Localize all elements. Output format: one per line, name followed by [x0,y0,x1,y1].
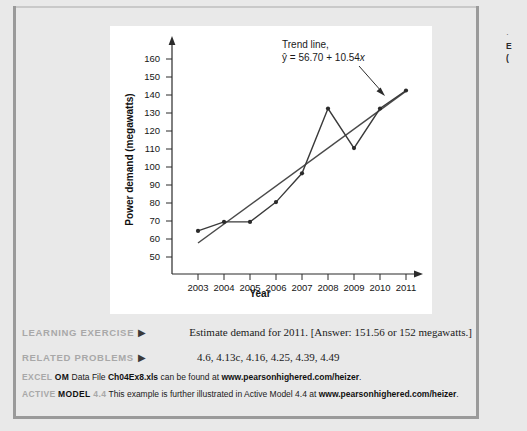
page-rule-left [13,6,16,419]
active-model-number: 4.4 [91,389,107,399]
active-model-row: ACTIVE MODEL 4.4 This example is further… [22,389,472,399]
learning-exercise-arrow-icon: ▶ [138,327,146,338]
active-model-lead-dark: MODEL [58,389,91,399]
trend-annotation-equation: ŷ = 56.70 + 10.54x [282,51,365,64]
page-rule-top [13,6,479,8]
margin-caption-line1: · [506,28,527,40]
learning-exercise-body: Estimate demand for 2011. [Answer: 151.5… [189,326,472,338]
y-axis-ticks [166,59,172,257]
related-problems-row: RELATED PROBLEMS▶ 4.6, 4.13c, 4.16, 4.25… [22,347,472,365]
data-point-markers [196,88,408,233]
trend-annotation-line1: Trend line, [282,38,365,51]
y-tick-label-80: 80 [134,197,160,208]
notes-block: LEARNING EXERCISE▶ Estimate demand for 2… [22,322,472,406]
y-tick-label-110: 110 [134,143,160,154]
y-tick-label-160: 160 [134,53,160,64]
learning-exercise-tag-col: LEARNING EXERCISE▶ [22,322,189,340]
excel-om-file-name: Ch04Ex8.xls [108,372,158,382]
axis-lines [169,36,423,277]
active-model-url[interactable]: www.pearsonhighered.com/heizer [319,389,457,399]
related-problems-tag: RELATED PROBLEMS [22,352,134,363]
y-tick-label-100: 100 [134,161,160,172]
trend-equation-variable: x [360,52,365,63]
related-problems-tag-col: RELATED PROBLEMS▶ [22,347,197,365]
excel-om-lead-gray: EXCEL [22,372,52,382]
y-tick-label-70: 70 [134,215,160,226]
margin-caption-fragment: · E ( [506,28,527,64]
excel-om-row: EXCEL OM Data File Ch04Ex8.xls can be fo… [22,372,472,382]
excel-om-text-before: Data File [69,372,108,382]
learning-exercise-tag: LEARNING EXERCISE [22,327,134,338]
y-tick-label-60: 60 [134,233,160,244]
related-problems-body: 4.6, 4.13c, 4.16, 4.25, 4.39, 4.49 [197,351,339,363]
margin-caption-line3: ( [506,52,527,64]
trend-equation-text: ŷ = 56.70 + 10.54 [282,52,360,63]
learning-exercise-row: LEARNING EXERCISE▶ Estimate demand for 2… [22,322,472,340]
page-rule-bottom [13,416,479,419]
y-tick-label-140: 140 [134,89,160,100]
y-tick-label-150: 150 [134,71,160,82]
y-tick-label-50: 50 [134,251,160,262]
trend-line-series [198,91,406,243]
trend-callout-arrow [359,66,385,96]
y-axis-title: Power demand (megawatts) [124,40,135,280]
excel-om-lead-dark: OM [55,372,70,382]
active-model-text-middle: This example is further illustrated in A… [106,389,318,399]
excel-om-text-middle: can be found at [158,372,221,382]
trend-line-annotation: Trend line, ŷ = 56.70 + 10.54x [282,38,365,64]
y-tick-label-120: 120 [134,125,160,136]
related-problems-arrow-icon: ▶ [138,352,146,363]
actual-demand-series [196,88,408,233]
active-model-lead-gray: ACTIVE [22,389,56,399]
y-tick-label-130: 130 [134,107,160,118]
excel-om-url[interactable]: www.pearsonhighered.com/heizer [221,372,359,382]
figure-panel: 160 150 140 130 120 110 100 90 80 70 60 … [110,26,432,314]
active-model-text-end: . [456,389,458,399]
x-axis-title: Year [110,288,410,299]
margin-caption-line2: E [506,40,527,52]
excel-om-text-end: . [359,372,361,382]
x-axis-ticks [198,274,406,280]
figure-page: 160 150 140 130 120 110 100 90 80 70 60 … [0,0,527,431]
page-rule-right [476,6,479,419]
y-tick-label-90: 90 [134,179,160,190]
